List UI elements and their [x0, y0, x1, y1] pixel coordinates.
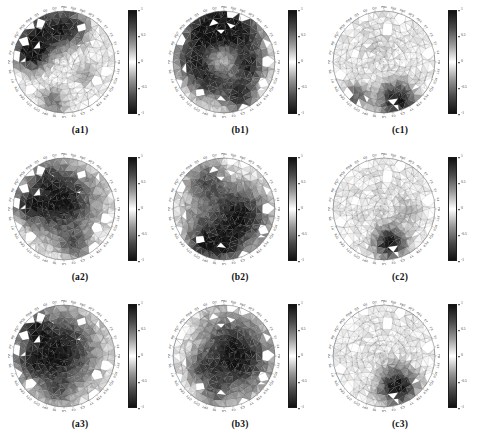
svg-text:FCz: FCz: [108, 233, 115, 240]
colorbar-a3: [128, 304, 137, 408]
svg-text:P8: P8: [10, 188, 15, 193]
svg-text:T8: T8: [52, 260, 57, 265]
svg-text:O2: O2: [212, 6, 217, 11]
svg-text:FCz: FCz: [428, 380, 435, 387]
svg-text:F7: F7: [423, 318, 429, 324]
colorbar-c1: [448, 10, 457, 114]
svg-text:FCz: FCz: [428, 86, 435, 93]
svg-text:P4: P4: [168, 197, 173, 202]
svg-text:Oz: Oz: [203, 8, 209, 13]
svg-text:Fp1: Fp1: [61, 153, 67, 156]
svg-text:Fz: Fz: [273, 188, 278, 193]
svg-text:F4: F4: [275, 344, 280, 349]
svg-text:FC3: FC3: [432, 77, 438, 84]
svg-text:Fz: Fz: [113, 41, 118, 46]
panel-b2: Fp1FpzFp2AF3AF4F7F3FzF4F8FT7FC3FCzFC4FT8…: [160, 147, 320, 294]
svg-text:P8: P8: [170, 335, 175, 340]
colorbar-tick-label: 0: [141, 354, 143, 358]
svg-text:F7: F7: [423, 171, 429, 177]
svg-text:P8: P8: [330, 188, 335, 193]
svg-text:TP8: TP8: [13, 233, 20, 240]
colorbar-tick-label: -0.5: [461, 380, 467, 384]
svg-text:C4: C4: [62, 409, 66, 412]
colorbar-tick-label: 0: [461, 354, 463, 358]
svg-text:FT7: FT7: [435, 215, 440, 221]
svg-text:Fp2: Fp2: [399, 302, 406, 308]
colorbar-tick-label: -0.5: [141, 233, 147, 237]
svg-text:Pz: Pz: [168, 354, 171, 358]
svg-text:C4: C4: [382, 115, 386, 118]
svg-text:F4: F4: [435, 197, 440, 202]
svg-text:F8: F8: [277, 354, 280, 358]
panel-label-c3: (c3): [392, 419, 408, 429]
svg-text:O2: O2: [212, 300, 217, 305]
svg-text:C3: C3: [400, 111, 405, 116]
svg-text:F3: F3: [429, 32, 434, 37]
svg-text:Fp2: Fp2: [399, 8, 406, 14]
svg-text:Fp1: Fp1: [61, 6, 67, 9]
svg-text:T7: T7: [88, 401, 93, 406]
svg-text:FT7: FT7: [275, 68, 280, 74]
plot-row-b1: Fp1FpzFp2AF3AF4F7F3FzF4F8FT7FC3FCzFC4FT8…: [160, 0, 320, 124]
svg-text:FT7: FT7: [275, 362, 280, 368]
svg-text:F4: F4: [275, 50, 280, 55]
svg-text:F3: F3: [269, 32, 274, 37]
svg-text:FC3: FC3: [272, 224, 278, 231]
svg-text:P3: P3: [328, 363, 333, 368]
svg-text:Oz: Oz: [203, 302, 209, 307]
svg-text:P3: P3: [8, 216, 13, 221]
svg-text:P3: P3: [328, 69, 333, 74]
panel-grid: Fp1FpzFp2AF3AF4F7F3FzF4F8FT7FC3FCzFC4FT8…: [0, 0, 480, 442]
svg-text:Oz: Oz: [363, 8, 369, 13]
panel-label-c2: (c2): [392, 272, 408, 282]
colorbar-tick-label: 0.5: [301, 181, 306, 185]
svg-text:Pz: Pz: [8, 354, 11, 358]
svg-text:TP7: TP7: [362, 404, 369, 410]
panel-label-a2: (a2): [72, 272, 89, 282]
colorbar-tick-label: 0.5: [461, 328, 466, 332]
svg-text:T8: T8: [372, 260, 377, 265]
svg-text:F8: F8: [117, 60, 120, 64]
panel-c2: Fp1FpzFp2AF3AF4F7F3FzF4F8FT7FC3FCzFC4FT8…: [320, 147, 480, 294]
svg-text:T8: T8: [52, 407, 57, 412]
svg-text:P3: P3: [168, 216, 173, 221]
plot-row-b3: Fp1FpzFp2AF3AF4F7F3FzF4F8FT7FC3FCzFC4FT8…: [160, 294, 320, 418]
svg-text:TP7: TP7: [42, 257, 49, 263]
plot-row-b2: Fp1FpzFp2AF3AF4F7F3FzF4F8FT7FC3FCzFC4FT8…: [160, 147, 320, 271]
svg-text:F4: F4: [275, 197, 280, 202]
topoplot-b2: Fp1FpzFp2AF3AF4F7F3FzF4F8FT7FC3FCzFC4FT8…: [168, 153, 280, 265]
colorbar-tick-label: 1: [461, 155, 463, 159]
panel-label-c1: (c1): [392, 125, 408, 135]
svg-text:Fz: Fz: [113, 335, 118, 340]
svg-text:Cz: Cz: [71, 113, 76, 118]
colorbar-b3: [288, 304, 297, 408]
svg-text:AF3: AF3: [248, 12, 255, 19]
figure-topoplot-grid: Fp1FpzFp2AF3AF4F7F3FzF4F8FT7FC3FCzFC4FT8…: [0, 0, 480, 442]
panel-label-a3: (a3): [72, 419, 89, 429]
svg-text:FCz: FCz: [268, 86, 275, 93]
svg-text:P4: P4: [168, 344, 173, 349]
svg-text:AF3: AF3: [408, 159, 415, 166]
svg-text:C3: C3: [80, 258, 85, 263]
svg-text:P7: P7: [10, 372, 15, 377]
svg-text:T7: T7: [408, 254, 413, 259]
svg-text:TP8: TP8: [333, 233, 340, 240]
panel-label-b1: (b1): [231, 125, 248, 135]
svg-text:T8: T8: [212, 407, 217, 412]
svg-text:C3: C3: [80, 111, 85, 116]
svg-text:Fz: Fz: [433, 41, 438, 46]
colorbar-tick-label: 0.5: [461, 34, 466, 38]
svg-text:P4: P4: [8, 344, 13, 349]
colorbar-tick-label: 0.5: [301, 328, 306, 332]
svg-text:Pz: Pz: [328, 207, 331, 211]
colorbar-a1: [128, 10, 137, 114]
svg-text:Fpz: Fpz: [231, 153, 237, 158]
svg-text:O1: O1: [34, 12, 40, 18]
colorbar-tick-label: 1: [301, 155, 303, 159]
svg-text:TP7: TP7: [42, 404, 49, 410]
colorbar-tick-label: -0.5: [461, 86, 467, 90]
svg-text:Fp2: Fp2: [79, 155, 86, 161]
colorbar-tick-label: 1: [301, 302, 303, 306]
svg-text:C3: C3: [80, 405, 85, 410]
svg-text:FT7: FT7: [115, 68, 120, 74]
